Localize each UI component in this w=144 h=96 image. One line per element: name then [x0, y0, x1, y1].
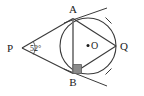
geometry-figure: P A B Q O 52°	[0, 0, 144, 96]
right-angle-marker-at-B	[73, 65, 82, 74]
label-point-Q: Q	[120, 40, 128, 52]
label-center-O: O	[91, 40, 98, 51]
label-point-A: A	[69, 3, 77, 15]
geometry-canvas: P A B Q O 52°	[0, 0, 144, 96]
label-point-P: P	[7, 42, 13, 54]
label-point-B: B	[69, 76, 76, 88]
arc-tick-BQ	[106, 69, 112, 75]
label-angle-at-P: 52°	[30, 44, 41, 53]
center-dot-O	[87, 44, 90, 47]
arc-tick-AQ	[106, 18, 112, 24]
